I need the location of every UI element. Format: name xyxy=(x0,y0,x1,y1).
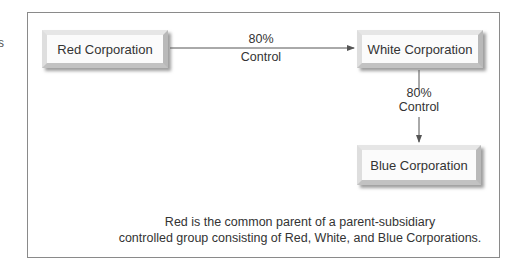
blue-corporation-label: Blue Corporation xyxy=(370,158,468,173)
blue-corporation-box: Blue Corporation xyxy=(357,145,481,185)
edge-white-blue-relation: Control xyxy=(389,100,449,115)
red-corporation-label: Red Corporation xyxy=(57,42,152,57)
white-corporation-box: White Corporation xyxy=(357,30,483,68)
red-corporation-box: Red Corporation xyxy=(42,30,168,68)
edge-white-blue-percent: 80% xyxy=(389,86,449,101)
diagram-caption: Red is the common parent of a parent-sub… xyxy=(100,214,500,246)
edge-red-white-relation: Control xyxy=(231,50,291,65)
edge-red-white-percent: 80% xyxy=(231,32,291,47)
white-corporation-label: White Corporation xyxy=(368,42,473,57)
caption-line-2: controlled group consisting of Red, Whit… xyxy=(100,230,500,246)
caption-line-1: Red is the common parent of a parent-sub… xyxy=(100,214,500,230)
